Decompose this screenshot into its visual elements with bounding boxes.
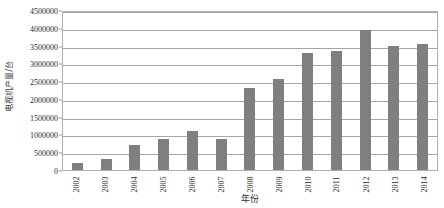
bar-2012[interactable] [360, 30, 371, 170]
bar-slot [264, 12, 293, 170]
bar-2003[interactable] [101, 159, 112, 170]
bar-2002[interactable] [72, 163, 83, 170]
y-axis-tick-label: 4500000 [30, 7, 58, 16]
x-axis-tick-slot: 2012 [351, 172, 380, 194]
x-axis-tick-slot: 2014 [409, 172, 438, 194]
x-axis-tick-label: 2008 [245, 177, 254, 193]
bar-slot [293, 12, 322, 170]
bar-slot [92, 12, 121, 170]
x-axis-tick-slot: 2006 [178, 172, 207, 194]
y-axis-tick-label: 500000 [34, 149, 58, 158]
x-axis-tick-slot: 2007 [207, 172, 236, 194]
x-axis-tick-slot: 2008 [236, 172, 265, 194]
y-axis-tick-label: 1000000 [30, 131, 58, 140]
bar-2009[interactable] [273, 79, 284, 170]
y-axis-tick-label: 2500000 [30, 78, 58, 87]
bar-2005[interactable] [158, 139, 169, 170]
bar-2006[interactable] [187, 131, 198, 170]
x-axis-tick-label: 2011 [332, 177, 341, 193]
x-axis-tick-label: 2009 [274, 177, 283, 193]
bar-2007[interactable] [216, 139, 227, 170]
bars-layer [63, 12, 437, 170]
x-axis-tick-labels: 2002200320042005200620072008200920102011… [62, 172, 438, 194]
y-axis-tick-label: 3500000 [30, 42, 58, 51]
x-axis-tick-label: 2006 [188, 177, 197, 193]
bar-2013[interactable] [388, 46, 399, 170]
y-axis-tick-label: 0 [54, 167, 58, 176]
bar-2011[interactable] [331, 51, 342, 170]
x-axis-tick-label: 2003 [101, 177, 110, 193]
x-axis-tick-slot: 2005 [149, 172, 178, 194]
y-axis-tick-label: 4000000 [30, 24, 58, 33]
y-axis-tick-labels: 4500000400000035000003000000250000020000… [14, 0, 62, 180]
y-axis-tick-label: 3000000 [30, 60, 58, 69]
bar-slot [236, 12, 265, 170]
bar-2010[interactable] [302, 53, 313, 170]
x-axis-tick-label: 2012 [361, 177, 370, 193]
y-axis-tick-label: 1500000 [30, 113, 58, 122]
bar-2014[interactable] [417, 44, 428, 170]
bar-slot [178, 12, 207, 170]
bar-slot [207, 12, 236, 170]
x-axis-tick-slot: 2011 [322, 172, 351, 194]
y-axis-title-label: 电视机产量/台 [3, 61, 14, 112]
x-axis-tick-label: 2005 [159, 177, 168, 193]
y-axis-tick-label: 2000000 [30, 95, 58, 104]
x-axis-tick-slot: 2009 [264, 172, 293, 194]
x-axis-tick-slot: 2013 [380, 172, 409, 194]
x-axis-tick-label: 2002 [72, 177, 81, 193]
x-axis-tick-label: 2007 [217, 177, 226, 193]
x-axis-tick-label: 2014 [419, 177, 428, 193]
bar-slot [351, 12, 380, 170]
bar-2004[interactable] [129, 145, 140, 170]
x-axis-tick-label: 2013 [390, 177, 399, 193]
x-axis-tick-slot: 2002 [62, 172, 91, 194]
bar-slot [121, 12, 150, 170]
x-axis-tick-label: 2010 [303, 177, 312, 193]
bar-slot [63, 12, 92, 170]
bar-2008[interactable] [244, 88, 255, 170]
bar-slot [322, 12, 351, 170]
plot-area [62, 11, 438, 171]
bar-slot [379, 12, 408, 170]
bar-slot [408, 12, 437, 170]
bar-chart: 电视机产量/台 45000004000000350000030000002500… [0, 0, 444, 208]
bar-slot [149, 12, 178, 170]
x-axis-title: 年份 [62, 192, 438, 205]
x-axis-tick-slot: 2010 [293, 172, 322, 194]
x-axis-tick-slot: 2004 [120, 172, 149, 194]
x-axis-tick-slot: 2003 [91, 172, 120, 194]
x-axis-tick-label: 2004 [130, 177, 139, 193]
